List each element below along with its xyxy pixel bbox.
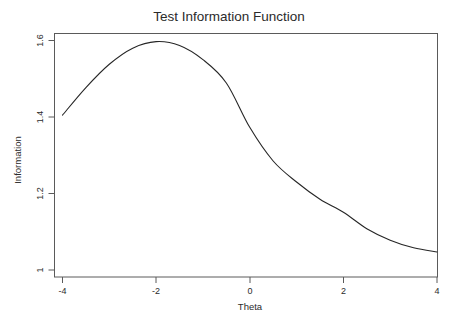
plot-background: [0, 0, 459, 319]
x-tick-label-2: 2: [341, 286, 346, 296]
y-tick-label-1_4: 1.4: [35, 111, 45, 124]
y-tick-label-1: 1: [35, 267, 45, 272]
test-information-function-plot: Test Information Function 1.6 1.4 1.2 1 …: [0, 0, 459, 319]
x-tick-label-neg2: -2: [152, 286, 160, 296]
y-axis-title: Information: [12, 136, 23, 184]
chart-container: Test Information Function 1.6 1.4 1.2 1 …: [0, 0, 459, 319]
x-tick-label-neg4: -4: [58, 286, 66, 296]
y-tick-label-1_2: 1.2: [35, 187, 45, 200]
x-tick-label-4: 4: [434, 286, 439, 296]
page-title: Test Information Function: [153, 9, 305, 24]
x-axis-title: Theta: [238, 301, 263, 312]
y-tick-label-1_6: 1.6: [35, 34, 45, 47]
x-tick-label-0: 0: [247, 286, 252, 296]
